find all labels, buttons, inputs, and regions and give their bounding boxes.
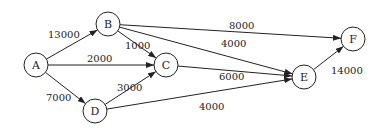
edge-weight-label: 2000 — [87, 53, 112, 64]
node-c: C — [154, 53, 178, 77]
network-diagram: 1300020007000100080004000600030004000140… — [0, 0, 386, 132]
node-label: C — [162, 59, 170, 72]
node-label: A — [31, 59, 41, 72]
edge-weight-label: 14000 — [331, 65, 363, 76]
node-f: F — [341, 27, 365, 51]
edge-weight-label: 13000 — [48, 29, 80, 40]
node-label: E — [300, 71, 308, 84]
node-label: D — [91, 105, 100, 118]
edge-weight-label: 4000 — [221, 38, 246, 49]
edge-weight-label: 8000 — [229, 20, 254, 31]
node-a: A — [24, 53, 48, 77]
node-e: E — [292, 65, 316, 89]
edge-weight-label: 6000 — [219, 71, 244, 82]
edge-weight-label: 7000 — [46, 92, 71, 103]
node-b: B — [96, 12, 120, 36]
edge-weight-label: 4000 — [199, 101, 224, 112]
edge-weight-label: 1000 — [125, 40, 150, 51]
node-d: D — [83, 99, 107, 123]
node-label: F — [349, 33, 357, 46]
edge-weight-label: 3000 — [117, 82, 142, 93]
node-label: B — [104, 18, 112, 31]
graph-canvas: 1300020007000100080004000600030004000140… — [0, 0, 386, 132]
edge-labels-layer: 1300020007000100080004000600030004000140… — [46, 20, 363, 112]
